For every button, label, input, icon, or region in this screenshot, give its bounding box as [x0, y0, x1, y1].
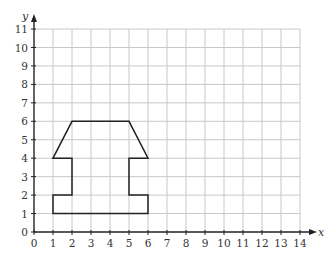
y-tick-label: 8 — [21, 78, 28, 90]
x-tick-label: 13 — [274, 237, 287, 249]
x-tick-label: 5 — [126, 237, 133, 249]
x-tick-label: 1 — [50, 237, 57, 249]
x-tick-label: 14 — [293, 237, 307, 249]
y-tick-label: 4 — [21, 152, 28, 164]
grid-lines — [34, 29, 300, 232]
y-tick-label: 0 — [21, 226, 28, 238]
y-tick-label: 5 — [21, 134, 28, 146]
y-tick-label: 2 — [21, 189, 28, 201]
x-axis-arrow-icon — [309, 229, 317, 235]
y-tick-label: 11 — [15, 23, 28, 35]
x-tick-label: 2 — [69, 237, 76, 249]
coordinate-grid-chart: 0123456789101112131401234567891011 x y — [0, 0, 334, 260]
tick-labels: 0123456789101112131401234567891011 — [15, 23, 307, 249]
y-tick-label: 7 — [21, 97, 28, 109]
y-tick-label: 10 — [15, 42, 28, 54]
x-tick-label: 6 — [145, 237, 152, 249]
x-axis-label: x — [318, 226, 325, 239]
y-axis-arrow-icon — [31, 14, 37, 22]
x-tick-label: 4 — [107, 237, 114, 249]
y-tick-label: 1 — [21, 208, 28, 220]
y-tick-label: 9 — [21, 60, 28, 72]
y-tick-label: 3 — [21, 171, 28, 183]
x-tick-label: 7 — [164, 237, 171, 249]
x-tick-label: 3 — [88, 237, 95, 249]
shape-outline — [53, 121, 148, 213]
x-tick-label: 9 — [202, 237, 209, 249]
x-tick-label: 0 — [31, 237, 38, 249]
x-tick-label: 12 — [255, 237, 268, 249]
y-axis-label: y — [21, 10, 29, 23]
x-tick-label: 8 — [183, 237, 190, 249]
y-tick-label: 6 — [21, 115, 28, 127]
polygon-shape — [53, 121, 148, 213]
x-tick-label: 10 — [217, 237, 230, 249]
x-tick-label: 11 — [236, 237, 249, 249]
